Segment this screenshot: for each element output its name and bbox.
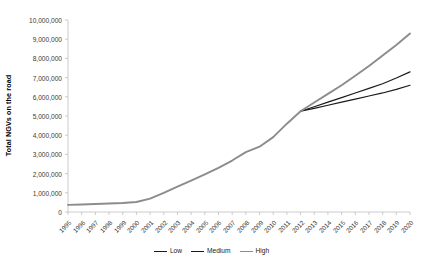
legend-item-high[interactable]: High (240, 248, 270, 255)
chart-container: Total NGVs on the road 01,000,0002,000,0… (0, 0, 423, 266)
y-tick-label: 3,000,000 (0, 151, 62, 158)
y-tick-label: 4,000,000 (0, 132, 62, 139)
y-tick-label: 5,000,000 (0, 113, 62, 120)
y-tick-label: 2,000,000 (0, 170, 62, 177)
legend-label: High (256, 248, 270, 255)
series-line-high (68, 33, 410, 204)
legend-label: Low (170, 248, 182, 255)
y-tick-label: 8,000,000 (0, 55, 62, 62)
legend-swatch-icon (191, 251, 204, 252)
legend-swatch-icon (154, 251, 167, 252)
legend-item-medium[interactable]: Medium (191, 248, 230, 255)
legend-label: Medium (207, 248, 230, 255)
y-tick-label: 10,000,000 (0, 17, 62, 24)
series-line-low (301, 85, 410, 111)
legend-item-low[interactable]: Low (154, 248, 182, 255)
legend-swatch-icon (240, 251, 253, 252)
series-line-medium (301, 72, 410, 111)
y-tick-label: 6,000,000 (0, 93, 62, 100)
y-tick-label: 0 (0, 209, 62, 216)
y-tick-label: 1,000,000 (0, 189, 62, 196)
y-tick-label: 9,000,000 (0, 36, 62, 43)
y-tick-label: 7,000,000 (0, 74, 62, 81)
chart-legend: LowMediumHigh (0, 248, 423, 255)
